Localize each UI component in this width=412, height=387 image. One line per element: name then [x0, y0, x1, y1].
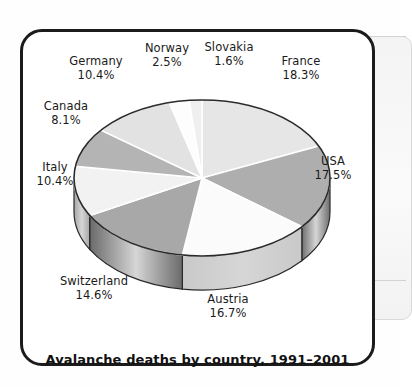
slice-label-france: France 18.3% [270, 54, 332, 82]
slice-label-germany: Germany 10.4% [59, 54, 133, 82]
slice-label-austria-name: Austria [195, 292, 261, 306]
slice-label-canada-percent: 8.1% [35, 113, 97, 127]
slice-label-germany-percent: 10.4% [59, 68, 133, 82]
slice-label-canada-name: Canada [35, 99, 97, 113]
slice-label-austria-percent: 16.7% [195, 306, 261, 320]
slice-label-france-name: France [270, 54, 332, 68]
slice-label-germany-name: Germany [59, 54, 133, 68]
slice-label-france-percent: 18.3% [270, 68, 332, 82]
slice-label-norway-name: Norway [137, 41, 197, 55]
slice-label-canada: Canada 8.1% [35, 99, 97, 127]
slice-label-norway-percent: 2.5% [137, 55, 197, 69]
slice-label-norway: Norway 2.5% [137, 41, 197, 69]
slice-label-switzerland-percent: 14.6% [47, 288, 141, 302]
chart-card: Germany 10.4% Norway 2.5% Slovakia 1.6% … [20, 29, 375, 366]
pie-chart-figure: Germany 10.4% Norway 2.5% Slovakia 1.6% … [23, 32, 372, 363]
slice-label-austria: Austria 16.7% [195, 292, 261, 320]
slice-label-italy: Italy 10.4% [26, 160, 84, 188]
slice-label-slovakia-percent: 1.6% [196, 54, 262, 68]
slice-label-usa: USA 17.5% [304, 154, 362, 182]
slice-label-usa-percent: 17.5% [304, 168, 362, 182]
slice-label-italy-percent: 10.4% [26, 174, 84, 188]
slice-label-usa-name: USA [304, 154, 362, 168]
slice-label-slovakia: Slovakia 1.6% [196, 40, 262, 68]
pie-chart-svg [69, 82, 335, 294]
slice-label-switzerland-name: Switzerland [47, 274, 141, 288]
slice-label-switzerland: Switzerland 14.6% [47, 274, 141, 302]
slice-label-italy-name: Italy [26, 160, 84, 174]
slice-label-slovakia-name: Slovakia [196, 40, 262, 54]
chart-caption: Avalanche deaths by country, 1991–2001 [23, 352, 372, 367]
